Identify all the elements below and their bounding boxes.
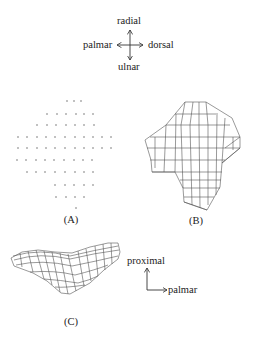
panel-b-caption: (B) xyxy=(189,215,203,227)
marker-dot-grid xyxy=(16,100,111,208)
side-view-mesh xyxy=(11,243,120,294)
compass-label-dorsal: dorsal xyxy=(148,39,174,51)
axis-label-palmar: palmar xyxy=(168,284,197,296)
axis-label-proximal: proximal xyxy=(127,255,165,267)
view-axes-arrows xyxy=(147,268,167,290)
panel-c-caption: (C) xyxy=(64,316,78,328)
compass-label-palmar: palmar xyxy=(83,39,112,51)
compass-label-ulnar: ulnar xyxy=(118,61,140,73)
compass-arrows xyxy=(117,30,143,60)
compass-label-radial: radial xyxy=(117,15,141,27)
figure-canvas xyxy=(0,0,254,338)
front-view-mesh xyxy=(145,102,240,210)
panel-a-caption: (A) xyxy=(64,214,79,226)
